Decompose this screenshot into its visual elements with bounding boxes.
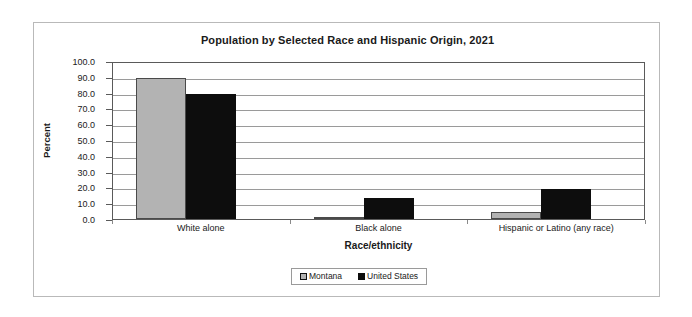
legend-entry: Montana	[300, 271, 342, 281]
y-axis-tick-label: 60.0	[51, 120, 95, 130]
legend-swatch-icon	[300, 273, 307, 280]
y-axis-tick-label: 0.0	[51, 215, 95, 225]
y-axis-tick-label: 40.0	[51, 152, 95, 162]
x-axis-tick-labels: White aloneBlack aloneHispanic or Latino…	[112, 223, 645, 237]
y-axis-tick-label: 100.0	[51, 57, 95, 67]
x-axis-tick-label: White alone	[177, 223, 225, 233]
chart-frame: Population by Selected Race and Hispanic…	[33, 22, 660, 297]
chart-title: Population by Selected Race and Hispanic…	[34, 34, 661, 46]
y-axis-tick-label: 80.0	[51, 89, 95, 99]
bar	[314, 217, 364, 219]
y-axis-tick-label: 30.0	[51, 168, 95, 178]
y-axis-tick-label: 70.0	[51, 104, 95, 114]
x-axis-tick-mark	[645, 220, 646, 224]
legend-label: Montana	[309, 271, 342, 281]
x-axis-title: Race/ethnicity	[112, 240, 645, 251]
x-axis-tick-label: Hispanic or Latino (any race)	[499, 223, 614, 233]
legend-entry: United States	[358, 271, 418, 281]
x-axis-tick-label: Black alone	[355, 223, 402, 233]
legend-swatch-icon	[358, 273, 365, 280]
y-axis-tick-labels: 0.010.020.030.040.050.060.070.080.090.01…	[51, 62, 95, 220]
y-axis-tick-label: 10.0	[51, 199, 95, 209]
y-axis-tick-label: 50.0	[51, 136, 95, 146]
bar	[364, 198, 414, 219]
bar	[491, 212, 541, 219]
y-axis-tick-label: 90.0	[51, 73, 95, 83]
bar	[186, 94, 236, 219]
bar	[136, 78, 186, 219]
bars-layer	[113, 63, 644, 219]
y-axis-tick-label: 20.0	[51, 183, 95, 193]
chart-legend: MontanaUnited States	[291, 268, 427, 285]
bar	[541, 189, 591, 219]
legend-label: United States	[367, 271, 418, 281]
plot-area	[112, 62, 645, 220]
